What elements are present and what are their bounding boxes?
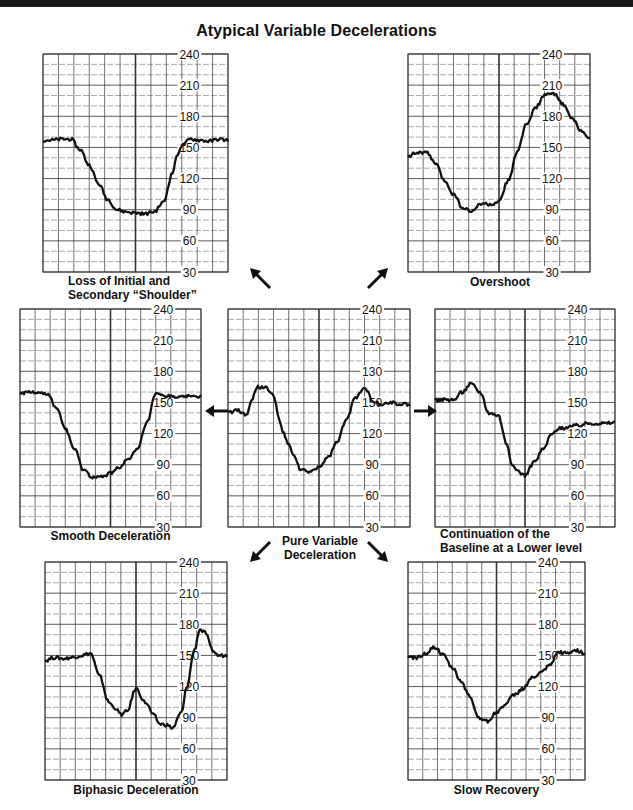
chart-loss-of-shoulder: 306090120150180210240 — [43, 54, 228, 272]
y-tick-label: 210 — [153, 334, 173, 348]
y-tick-label: 240 — [362, 303, 382, 317]
y-tick-label: 130 — [362, 365, 382, 379]
chart-smooth-deceleration: 306090120150180210240 — [20, 309, 201, 527]
chart-slow-recovery: 306090120150180210240 — [408, 562, 585, 780]
y-tick-label: 210 — [542, 79, 562, 93]
caption-line-1: Biphasic Deceleration — [45, 783, 227, 797]
y-tick-label: 90 — [545, 203, 559, 217]
y-tick-label: 180 — [538, 618, 558, 632]
y-tick-label: 180 — [567, 365, 587, 379]
chart-biphasic-deceleration: 306090120150180210240 — [45, 562, 227, 780]
y-tick-label: 120 — [179, 172, 199, 186]
y-tick-label: 150 — [153, 396, 173, 410]
chart-svg: 306090120150180210240 — [435, 309, 615, 527]
y-tick-label: 30 — [545, 266, 559, 280]
caption-line-2: Deceleration — [270, 548, 370, 562]
y-tick-label: 60 — [545, 234, 559, 248]
chart-continuation-lower-baseline: 306090120150180210240 — [435, 309, 615, 527]
y-tick-label: 210 — [179, 587, 199, 601]
y-tick-label: 60 — [541, 742, 555, 756]
chart-svg: 306090120150180210240 — [408, 54, 590, 272]
caption-line-1: Loss of Initial and — [68, 274, 197, 288]
caption-line-2: Baseline at a Lower level — [440, 541, 582, 555]
y-tick-label: 120 — [362, 427, 382, 441]
figure-title: Atypical Variable Decelerations — [0, 22, 633, 40]
y-tick-label: 180 — [179, 110, 199, 124]
arrow-up-right-icon — [362, 264, 392, 294]
caption-line-1: Slow Recovery — [408, 783, 585, 797]
y-tick-label: 240 — [153, 303, 173, 317]
caption-continuation-lower-baseline: Continuation of the Baseline at a Lower … — [440, 527, 582, 555]
arrow-down-left-icon — [246, 536, 276, 566]
caption-line-2: Secondary “Shoulder” — [68, 288, 197, 302]
y-tick-label: 120 — [542, 172, 562, 186]
caption-smooth-deceleration: Smooth Deceleration — [20, 529, 201, 543]
arrow-right-icon — [410, 396, 440, 426]
caption-overshoot: Overshoot — [460, 275, 540, 289]
y-tick-label: 90 — [183, 203, 197, 217]
top-border-bar — [0, 0, 633, 7]
chart-svg: 306090120150180210240 — [43, 54, 228, 272]
caption-loss-of-shoulder: Loss of Initial and Secondary “Shoulder” — [68, 274, 197, 302]
y-tick-label: 30 — [365, 521, 379, 535]
arrow-left-icon — [202, 396, 232, 426]
caption-line-1: Pure Variable — [270, 534, 370, 548]
y-tick-label: 210 — [538, 587, 558, 601]
chart-overshoot: 306090120150180210240 — [408, 54, 590, 272]
y-tick-label: 240 — [567, 303, 587, 317]
caption-biphasic-deceleration: Biphasic Deceleration — [45, 783, 227, 797]
y-tick-label: 60 — [571, 489, 585, 503]
y-tick-label: 240 — [542, 48, 562, 62]
caption-pure-variable-deceleration: Pure Variable Deceleration — [270, 534, 370, 562]
y-tick-label: 150 — [179, 649, 199, 663]
y-tick-label: 120 — [567, 427, 587, 441]
y-tick-label: 90 — [541, 711, 555, 725]
y-tick-label: 60 — [182, 742, 196, 756]
chart-svg: 306090120150130210240 — [228, 309, 410, 527]
y-tick-label: 180 — [542, 110, 562, 124]
y-tick-label: 60 — [157, 489, 171, 503]
y-tick-label: 90 — [182, 711, 196, 725]
y-tick-label: 120 — [538, 680, 558, 694]
y-tick-label: 180 — [179, 618, 199, 632]
y-tick-label: 90 — [365, 458, 379, 472]
y-tick-label: 150 — [567, 396, 587, 410]
y-tick-label: 180 — [153, 365, 173, 379]
y-tick-label: 90 — [571, 458, 585, 472]
y-tick-label: 240 — [179, 48, 199, 62]
chart-pure-variable-deceleration: 306090120150130210240 — [228, 309, 410, 527]
y-tick-label: 150 — [542, 141, 562, 155]
y-tick-label: 90 — [157, 458, 171, 472]
y-tick-label: 120 — [153, 427, 173, 441]
caption-line-1: Continuation of the — [440, 527, 582, 541]
y-tick-label: 60 — [183, 234, 197, 248]
caption-line-1: Smooth Deceleration — [20, 529, 201, 543]
caption-slow-recovery: Slow Recovery — [408, 783, 585, 797]
chart-svg: 306090120150180210240 — [408, 562, 585, 780]
caption-line-1: Overshoot — [460, 275, 540, 289]
y-tick-label: 210 — [179, 79, 199, 93]
y-tick-label: 240 — [538, 556, 558, 570]
y-tick-label: 60 — [365, 489, 379, 503]
arrow-down-right-icon — [362, 536, 392, 566]
y-tick-label: 210 — [567, 334, 587, 348]
chart-svg: 306090120150180210240 — [45, 562, 227, 780]
chart-svg: 306090120150180210240 — [20, 309, 201, 527]
y-tick-label: 240 — [179, 556, 199, 570]
arrow-up-left-icon — [246, 264, 276, 294]
y-tick-label: 150 — [362, 396, 382, 410]
y-tick-label: 210 — [362, 334, 382, 348]
